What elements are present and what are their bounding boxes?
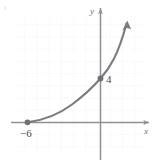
math-figure: −6 4 y x: [0, 0, 156, 166]
y-intercept-label: 4: [106, 73, 112, 85]
coordinate-plane-graphic: −6 4 y x: [0, 0, 156, 166]
grid: [15, 18, 144, 152]
y-axis-label: y: [89, 6, 94, 16]
x-intercept-point: [25, 119, 31, 125]
x-axis-label: x: [143, 126, 148, 136]
x-intercept-label: −6: [20, 127, 32, 139]
y-intercept-point: [98, 76, 104, 82]
